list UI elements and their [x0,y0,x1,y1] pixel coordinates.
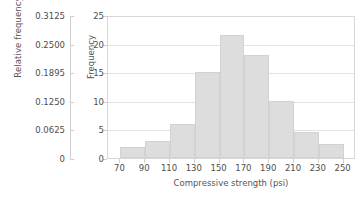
relative-frequency-tick [70,102,74,103]
relative-frequency-tick [70,73,74,74]
relative-frequency-tick-label: 0.0625 [35,126,65,135]
frequency-tick-label: 5 [99,126,104,135]
relative-frequency-tick-label: 0.3125 [35,12,65,21]
frequency-tick-label: 10 [93,98,104,107]
relative-frequency-tick [70,16,74,17]
relative-frequency-axis-title: Relative frequency [13,0,23,97]
relative-frequency-tick [70,130,74,131]
x-axis-tick-label: 250 [328,164,358,173]
histogram-figure: Relative frequency 0.3125 0.2500 0.1895 … [0,0,362,197]
x-axis-title: Compressive strength (psi) [107,178,355,188]
relative-frequency-tick-label: 0.1250 [35,98,65,107]
frequency-tick-label: 25 [93,12,104,21]
relative-frequency-tick [70,159,74,160]
plot-area [107,16,355,159]
bar [170,124,195,158]
bar-series [108,17,354,158]
relative-frequency-tick-label: 0.1895 [35,69,65,78]
relative-frequency-tick-label: 0.2500 [35,41,65,50]
bar [244,55,269,158]
relative-frequency-tick-label: 0 [60,155,65,164]
bar [195,72,220,158]
bar [269,101,294,158]
frequency-tick-label: 0 [99,155,104,164]
bar [120,147,145,158]
relative-frequency-axis-spine [70,16,71,159]
frequency-tick-label: 15 [93,69,104,78]
frequency-tick-label: 20 [93,41,104,50]
bar [294,132,319,158]
bar [220,35,245,158]
bar [145,141,170,158]
relative-frequency-tick [70,45,74,46]
bar [319,144,344,158]
